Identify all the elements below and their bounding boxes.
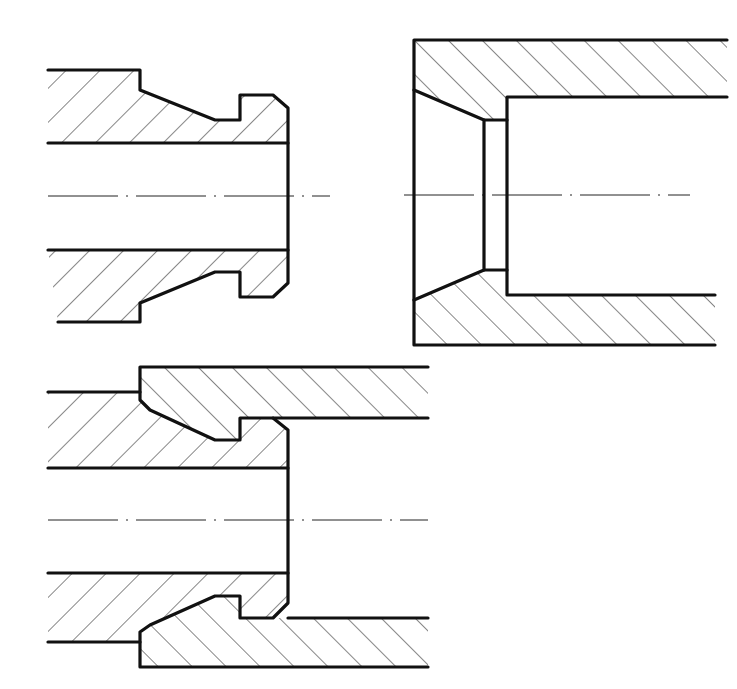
female-upper-wall-hatch bbox=[414, 40, 727, 120]
section-views bbox=[48, 40, 727, 667]
male-lower-wall-hatch bbox=[48, 250, 288, 322]
outline-edge bbox=[507, 97, 727, 295]
male-fitting-view bbox=[48, 70, 330, 322]
engineering-drawing bbox=[0, 0, 737, 689]
assembled-view bbox=[48, 367, 428, 667]
male-upper-wall-hatch bbox=[48, 70, 288, 143]
female-fitting-view bbox=[404, 40, 727, 345]
